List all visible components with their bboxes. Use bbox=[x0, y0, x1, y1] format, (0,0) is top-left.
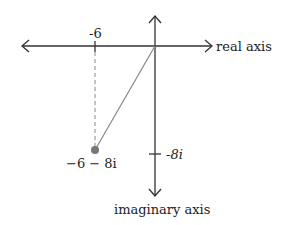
real-axis-label: real axis bbox=[216, 39, 272, 54]
diagram-svg: -6 real axis -8i −6 − 8i imaginary axis bbox=[0, 0, 283, 225]
point-marker bbox=[91, 146, 99, 154]
vector-segment bbox=[95, 46, 155, 150]
real-tick-label: -6 bbox=[89, 26, 102, 41]
complex-plane-diagram: -6 real axis -8i −6 − 8i imaginary axis bbox=[0, 0, 283, 225]
imaginary-axis-label: imaginary axis bbox=[114, 202, 210, 217]
imaginary-axis bbox=[149, 16, 161, 196]
point-label: −6 − 8i bbox=[66, 156, 117, 171]
real-axis bbox=[22, 40, 212, 52]
imag-tick-label: -8i bbox=[166, 147, 183, 162]
